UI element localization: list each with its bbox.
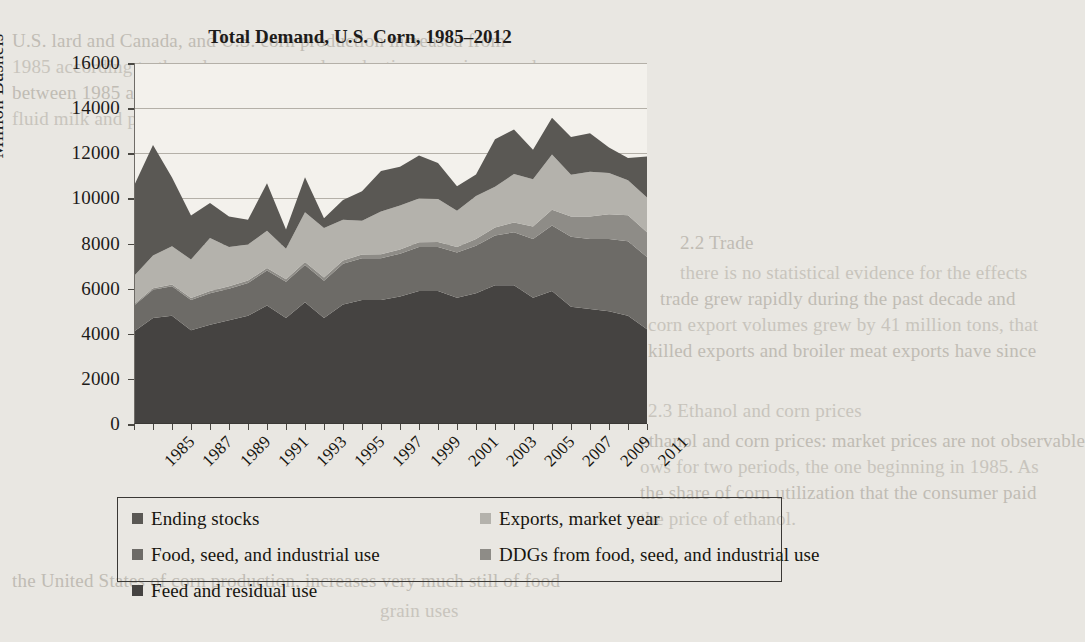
x-tick-label: 1985 — [160, 432, 199, 471]
legend-item[interactable]: DDGs from food, seed, and industrial use — [480, 539, 820, 570]
x-tick-label: 1991 — [274, 432, 313, 471]
x-tick-mark — [343, 424, 344, 430]
legend-swatch-icon — [132, 549, 143, 560]
y-tick-label: 4000 — [81, 323, 120, 345]
legend-swatch-icon — [132, 585, 143, 596]
x-tick-mark — [324, 424, 325, 430]
x-tick-label: 2005 — [540, 432, 579, 471]
legend-swatch-icon — [480, 513, 491, 524]
y-tick-label: 6000 — [81, 278, 120, 300]
y-tick-label: 2000 — [81, 368, 120, 390]
x-tick-mark — [457, 424, 458, 430]
x-tick-mark — [229, 424, 230, 430]
legend-label: Food, seed, and industrial use — [151, 544, 380, 566]
plot-frame — [134, 63, 647, 424]
chart-title: Total Demand, U.S. Corn, 1985–2012 — [0, 26, 720, 48]
legend-swatch-icon — [480, 549, 491, 560]
x-tick-mark — [419, 424, 420, 430]
y-tick-label: 16000 — [72, 52, 121, 74]
legend-column-right: Exports, market yearDDGs from food, seed… — [480, 498, 820, 570]
x-tick-mark — [571, 424, 572, 430]
x-tick-mark — [533, 424, 534, 430]
x-tick-mark — [248, 424, 249, 430]
x-tick-mark — [286, 424, 287, 430]
x-tick-mark — [476, 424, 477, 430]
x-tick-mark — [210, 424, 211, 430]
y-tick-label: 0 — [110, 413, 120, 435]
y-axis-ticks: 0200040006000800010000120001400016000 — [0, 63, 128, 424]
x-tick-label: 2007 — [578, 432, 617, 471]
x-tick-mark — [191, 424, 192, 430]
x-tick-mark — [438, 424, 439, 430]
x-axis-ticks — [134, 424, 647, 434]
x-tick-mark — [514, 424, 515, 430]
x-tick-label: 1987 — [198, 432, 237, 471]
legend-column-left: Ending stocksFood, seed, and industrial … — [132, 498, 380, 606]
x-tick-mark — [172, 424, 173, 430]
y-tick-label: 14000 — [72, 97, 121, 119]
x-tick-mark — [153, 424, 154, 430]
x-tick-mark — [628, 424, 629, 430]
x-tick-mark — [305, 424, 306, 430]
x-tick-label: 2009 — [616, 432, 655, 471]
legend-label: Exports, market year — [499, 508, 660, 530]
x-tick-label: 1989 — [236, 432, 275, 471]
x-tick-mark — [495, 424, 496, 430]
x-tick-label: 1999 — [426, 432, 465, 471]
x-tick-mark — [590, 424, 591, 430]
x-tick-label: 1997 — [388, 432, 427, 471]
x-tick-mark — [609, 424, 610, 430]
legend-swatch-icon — [132, 513, 143, 524]
legend-item[interactable]: Food, seed, and industrial use — [132, 539, 380, 570]
y-tick-label: 10000 — [72, 187, 121, 209]
x-tick-mark — [362, 424, 363, 430]
x-tick-mark — [134, 424, 135, 430]
x-tick-mark — [552, 424, 553, 430]
legend-item[interactable]: Ending stocks — [132, 503, 380, 534]
x-tick-label: 1995 — [350, 432, 389, 471]
x-tick-label: 2001 — [464, 432, 503, 471]
plot-area — [134, 63, 647, 424]
y-tick-label: 8000 — [81, 233, 120, 255]
x-tick-label: 2003 — [502, 432, 541, 471]
legend-item[interactable]: Feed and residual use — [132, 575, 380, 606]
legend-item[interactable]: Exports, market year — [480, 503, 820, 534]
legend-label: DDGs from food, seed, and industrial use — [499, 544, 820, 566]
legend-label: Ending stocks — [151, 508, 259, 530]
x-tick-mark — [400, 424, 401, 430]
chart-legend: Ending stocksFood, seed, and industrial … — [117, 497, 782, 582]
y-tick-label: 12000 — [72, 142, 121, 164]
x-tick-mark — [647, 424, 648, 430]
x-tick-mark — [267, 424, 268, 430]
x-tick-label: 2011 — [654, 432, 693, 471]
x-tick-label: 1993 — [312, 432, 351, 471]
x-tick-mark — [381, 424, 382, 430]
legend-label: Feed and residual use — [151, 580, 317, 602]
